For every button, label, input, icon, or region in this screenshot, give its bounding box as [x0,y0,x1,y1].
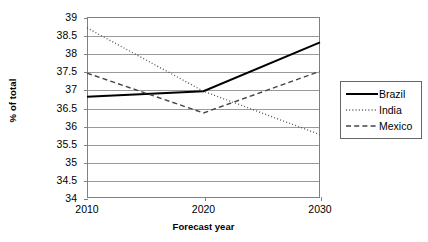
legend: BrazilIndiaMexico [340,81,422,139]
x-axis-label: Forecast year [87,221,320,232]
y-tick-label: 35 [65,156,77,168]
y-tick-label: 38 [65,47,77,59]
y-tick-label: 36.5 [57,102,77,114]
legend-swatch-icon [345,120,379,132]
legend-label: India [379,104,402,116]
legend-swatch-icon [345,104,379,116]
x-tick-label: 2010 [75,203,98,215]
legend-item-india: India [341,102,421,118]
legend-label: Mexico [379,120,412,132]
y-axis-tick-labels: 3938.53837.53736.53635.53534.534 [26,0,82,212]
y-axis-label: % of total [0,0,26,200]
x-axis-tick-labels: 201020202030 [87,203,320,219]
y-tick-label: 36 [65,120,77,132]
x-tick-label: 2030 [308,203,331,215]
legend-label: Brazil [379,88,405,100]
series-line-brazil [87,42,320,96]
y-tick-label: 37 [65,83,77,95]
x-tick-mark [321,197,322,201]
y-axis-label-text: % of total [8,78,19,122]
y-tick-label: 35.5 [57,138,77,150]
series-line-india [87,28,320,135]
y-tick-label: 34.5 [57,174,77,186]
y-tick-label: 37.5 [57,65,77,77]
y-tick-label: 39 [65,11,77,23]
legend-item-mexico: Mexico [341,118,421,134]
line-chart: % of total 3938.53837.53736.53635.53534.… [0,0,428,242]
y-tick-label: 38.5 [57,29,77,41]
legend-swatch-icon [345,88,379,100]
x-tick-label: 2020 [192,203,215,215]
series-lines [87,17,320,198]
legend-item-brazil: Brazil [341,86,421,102]
y-tick-mark [84,199,88,200]
